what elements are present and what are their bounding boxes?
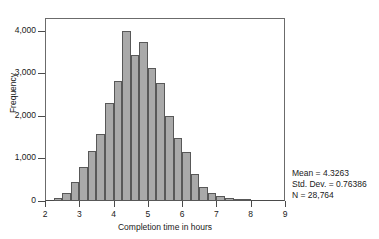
histogram-bar (208, 193, 217, 201)
histogram-bar (139, 42, 148, 201)
y-axis-tick (38, 73, 45, 74)
x-axis-tick (114, 201, 115, 207)
histogram-figure: 01,0002,0003,0004,000 Frequency 23456789… (0, 0, 379, 239)
y-axis-tick (38, 201, 45, 202)
stat-mean: Mean = 4.3263 (292, 168, 367, 179)
x-axis-tick-label: 7 (204, 209, 228, 219)
statistics-annotation: Mean = 4.3263 Std. Dev. = 0.76386 N = 28… (292, 168, 367, 201)
x-axis-tick-label: 8 (239, 209, 263, 219)
histogram-bar (62, 193, 71, 201)
histogram-bar (79, 167, 88, 201)
histogram-bar (96, 134, 105, 201)
histogram-bar (148, 68, 157, 201)
histogram-bar (182, 152, 191, 201)
y-axis-tick (38, 31, 45, 32)
y-axis-title: Frequency (8, 48, 18, 138)
y-axis-tick-label: 3,000 (0, 68, 36, 77)
x-axis-tick-label: 4 (102, 209, 126, 219)
x-axis-tick (148, 201, 149, 207)
histogram-bar (199, 187, 208, 201)
x-axis-tick (79, 201, 80, 207)
x-axis-tick (285, 201, 286, 207)
y-axis-tick (38, 158, 45, 159)
y-axis-tick-label: 4,000 (0, 26, 36, 35)
x-axis-tick (251, 201, 252, 207)
histogram-bar (105, 103, 114, 201)
histogram-bar (234, 199, 243, 201)
y-axis-tick-label: 1,000 (0, 153, 36, 162)
x-axis-tick (45, 201, 46, 207)
y-axis-tick-label: 0 (0, 196, 36, 205)
histogram-bar (71, 182, 80, 201)
histogram-bar (88, 151, 97, 201)
y-axis-tick-label: 2,000 (0, 111, 36, 120)
histogram-bar (242, 199, 251, 201)
stat-n: N = 28,764 (292, 190, 367, 201)
histogram-bar (131, 55, 140, 201)
histogram-bars (45, 18, 285, 201)
histogram-bar (191, 174, 200, 201)
histogram-bar (114, 81, 123, 201)
histogram-bar (165, 116, 174, 201)
x-axis-tick-label: 6 (170, 209, 194, 219)
histogram-bar (225, 198, 234, 201)
histogram-bar (156, 83, 165, 201)
x-axis-tick-label: 9 (273, 209, 297, 219)
histogram-bar (54, 198, 63, 201)
x-axis-tick (182, 201, 183, 207)
x-axis-tick-label: 3 (67, 209, 91, 219)
histogram-bar (174, 138, 183, 201)
x-axis-tick-label: 5 (136, 209, 160, 219)
x-axis-title: Completion time in hours (45, 222, 285, 232)
histogram-bar (122, 31, 131, 201)
stat-std-dev: Std. Dev. = 0.76386 (292, 179, 367, 190)
histogram-bar (216, 196, 225, 201)
y-axis-tick (38, 116, 45, 117)
x-axis-tick (216, 201, 217, 207)
x-axis-tick-label: 2 (33, 209, 57, 219)
